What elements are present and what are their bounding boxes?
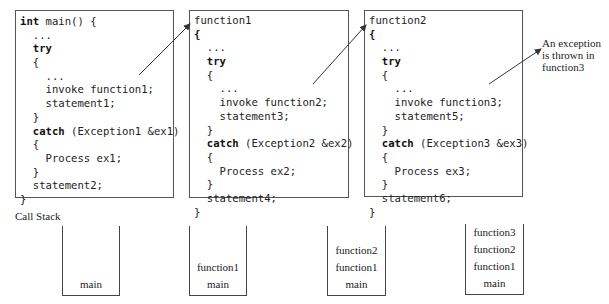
call-stack-label: Call Stack	[15, 210, 61, 222]
stack-frame: function2	[335, 242, 377, 259]
stack-frame: function1	[335, 259, 377, 276]
stack-frame: function1	[473, 258, 515, 275]
stack-frame: function1	[197, 259, 239, 276]
stack-frame: main	[484, 275, 506, 292]
call-stack-1: main	[62, 226, 120, 296]
call-stack-3: mainfunction1function2	[327, 226, 386, 296]
stack-frame: main	[346, 276, 368, 293]
call-stack-4: mainfunction1function2function3	[465, 224, 524, 295]
arrow-invoke-function1	[139, 24, 190, 75]
call-stack-2: mainfunction1	[189, 226, 247, 296]
arrow-exception-thrown	[489, 49, 541, 84]
stack-frame: function2	[473, 241, 515, 258]
stack-frame: main	[80, 276, 102, 293]
stack-frame: main	[207, 276, 229, 293]
arrow-invoke-function2	[313, 25, 366, 84]
stack-frame: function3	[473, 224, 515, 241]
